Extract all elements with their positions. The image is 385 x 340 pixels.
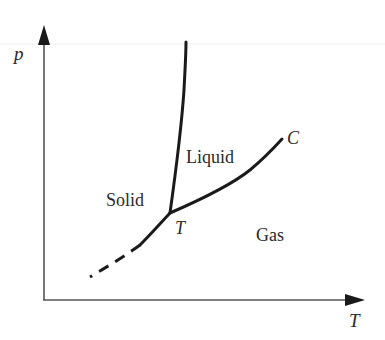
region-label-gas: Gas	[256, 226, 284, 244]
phase-diagram	[0, 0, 385, 340]
melting-curve	[170, 42, 186, 213]
critical-point-label: C	[287, 129, 299, 147]
x-axis-label: T	[349, 311, 360, 330]
region-label-solid: Solid	[106, 191, 144, 209]
x-axis-arrowhead	[345, 294, 365, 306]
region-label-liquid: Liquid	[186, 148, 234, 166]
sublimation-curve-dashed	[90, 245, 140, 277]
triple-point-label: T	[175, 219, 185, 237]
y-axis-label: p	[14, 44, 24, 63]
y-axis-arrowhead	[38, 25, 50, 45]
sublimation-curve-solid	[140, 213, 170, 245]
